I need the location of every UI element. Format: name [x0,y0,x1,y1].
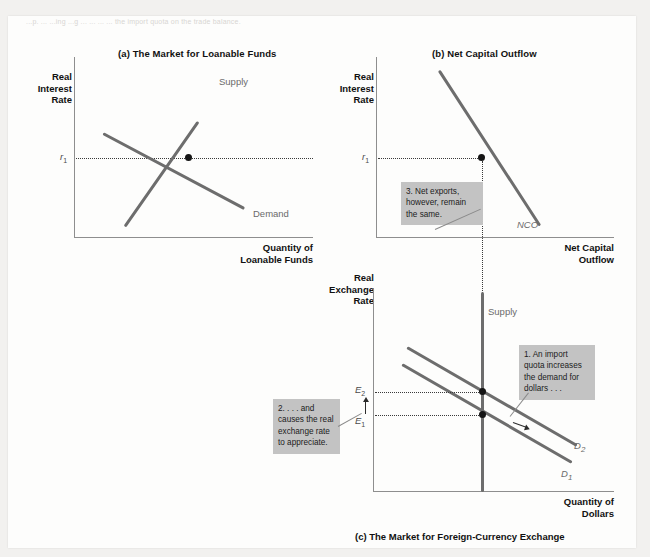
panel-c-e1-tick: E1 [355,415,365,428]
panel-c-supply-label: Supply [488,306,517,317]
panel-c-x-axis-line-1: Quantity of [474,496,614,508]
panel-a-equilibrium-point [185,154,192,161]
panel-c-demand2-label: D2 [574,440,585,454]
panel-b-equilibrium-point [478,154,485,161]
panel-a-x-axis-line-1: Quantity of [173,242,313,254]
panel-c-caption: (c) The Market for Foreign-Currency Exch… [355,531,565,542]
panel-b-x-axis-line-2: Outflow [474,254,614,266]
panel-b-r1-tick: r1 [362,151,369,164]
panel-c-callout-appreciation: 2. . . . and causes the real exchange ra… [273,399,340,454]
panel-c-equilibrium-point-1 [479,411,486,418]
panel-a-supply-label: Supply [219,76,248,87]
panel-c-e1-reference-line [375,415,483,416]
panel-a-demand-curve [102,132,245,210]
panel-b-x-axis-line-1: Net Capital [474,242,614,254]
panel-c-x-axis-label: Quantity of Dollars [474,496,614,519]
panel-b-title: (b) Net Capital Outflow [432,48,537,59]
panel-a-r1-reference-line [76,158,313,159]
panel-a-x-axis-line-2: Loanable Funds [173,254,313,266]
panel-a-title: (a) The Market for Loanable Funds [118,48,276,59]
panel-a-supply-curve [124,121,200,228]
panel-c-e2-reference-line [375,392,483,393]
panel-c-x-axis-line-2: Dollars [474,508,614,520]
panel-a-y-axis-line-3: Rate [16,94,72,106]
panel-a-demand-label: Demand [253,208,289,219]
panel-b-nco-label: NCO [517,219,538,230]
panel-b-callout-net-exports: 3. Net exports, however, remain the same… [401,182,483,225]
panel-b-x-axis-label: Net Capital Outflow [474,242,614,265]
panel-b-y-axis-label: Real Interest Rate [318,71,374,106]
panel-b-y-axis [376,57,377,238]
panel-c-y-axis-line-2: Exchange [314,284,374,296]
panel-a-y-axis-label: Real Interest Rate [16,71,72,106]
panel-b-y-axis-line-2: Interest [318,83,374,95]
panel-c-x-axis [373,491,614,492]
panel-b-y-axis-line-3: Rate [318,94,374,106]
panel-c-y-axis-line-1: Real [314,272,374,284]
panel-a-r1-tick: r1 [60,151,67,164]
panel-c-callout-import-quota: 1. An import quota increases the demand … [519,345,595,400]
figure-intro-text: ...p. ... ...ing ...g ... ... ... ... th… [26,18,466,27]
panel-a-y-axis [74,57,75,238]
panel-a-x-axis [74,237,313,238]
panel-b-r1-reference-line [378,158,482,159]
panel-c-e2-tick: E2 [355,384,365,397]
panel-a-y-axis-line-1: Real [16,71,72,83]
panel-c-y-axis [373,288,374,492]
panel-a-x-axis-label: Quantity of Loanable Funds [173,242,313,265]
panel-a-y-axis-line-2: Interest [16,83,72,95]
panel-b-y-axis-line-1: Real [318,71,374,83]
panel-c-demand1-label: D1 [561,468,572,482]
panel-c-appreciation-arrow [365,400,366,414]
figure-page: ...p. ... ...ing ...g ... ... ... ... th… [8,16,636,548]
panel-c-y-axis-label: Real Exchange Rate [314,272,374,307]
panel-c-equilibrium-point-2 [479,388,486,395]
panel-b-x-axis [376,237,614,238]
panel-c-y-axis-line-3: Rate [314,295,374,307]
